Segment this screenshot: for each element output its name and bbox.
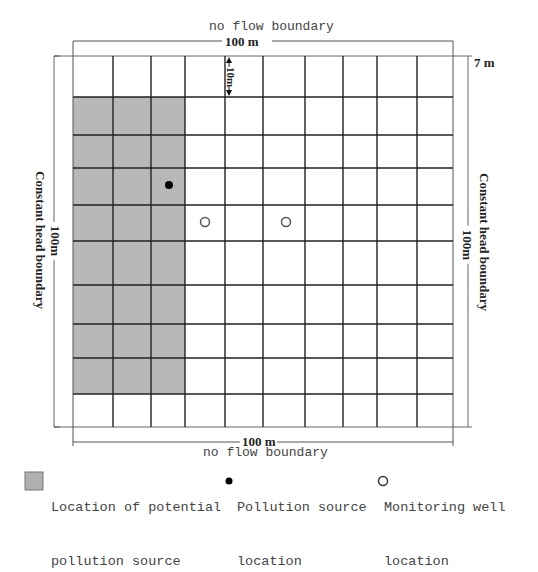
legend-filled-dot-icon — [226, 478, 233, 485]
legend-item-line: Monitoring well — [384, 499, 506, 517]
depth-label: 7 m — [474, 55, 495, 71]
legend-item-line: location — [384, 553, 506, 571]
top-boundary-label: no flow boundary — [209, 19, 334, 34]
potential-source-region — [73, 97, 185, 394]
legend-item-line: location — [237, 553, 367, 571]
legend-item-monitoring-well: Monitoring well location — [384, 463, 506, 572]
left-boundary-label: Constant head boundary — [32, 171, 48, 309]
legend-item-pollution-source: Pollution source location — [237, 463, 367, 572]
bottom-boundary-label: no flow boundary — [203, 445, 328, 460]
legend-item-potential-source: Location of potential pollution source — [51, 463, 221, 572]
legend-item-line: Pollution source — [237, 499, 367, 517]
legend-item-line: pollution source — [51, 553, 221, 571]
right-boundary-label: Constant head boundary — [476, 173, 492, 311]
monitoring-well-marker-2 — [282, 218, 291, 227]
legend-gray-square-icon — [25, 472, 43, 490]
right-dimension-label: 100m — [459, 226, 475, 264]
monitoring-well-marker-1 — [201, 218, 210, 227]
left-dimension-label: 100m — [47, 222, 63, 260]
pollution-source-marker — [165, 181, 173, 189]
top-dimension-label: 100 m — [224, 34, 260, 50]
cell-dimension-label: 10m — [226, 67, 236, 87]
legend-item-line: Location of potential — [51, 499, 221, 517]
